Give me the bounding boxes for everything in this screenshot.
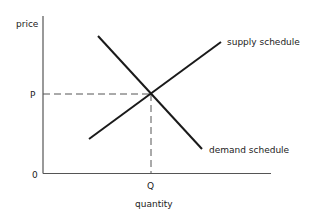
demand-curve: [98, 36, 202, 149]
supply-curve: [89, 42, 221, 139]
price-label: P: [30, 90, 36, 100]
demand-curve-label: demand schedule: [209, 145, 290, 155]
y-axis-label: price: [16, 19, 39, 29]
quantity-label: Q: [147, 181, 154, 191]
origin-label: 0: [32, 170, 38, 180]
x-axis-label: quantity: [135, 199, 173, 209]
supply-demand-diagram: price quantity 0 P Q supply schedule dem…: [0, 0, 310, 216]
supply-curve-label: supply schedule: [227, 37, 300, 47]
